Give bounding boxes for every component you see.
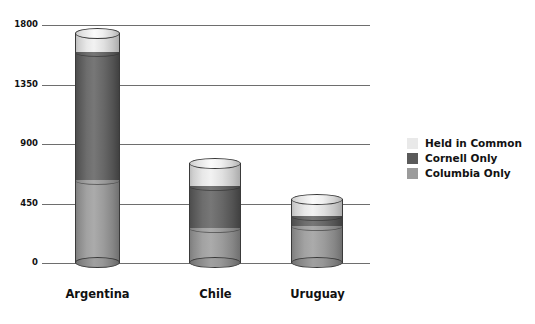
- segment-chile-cornell-only[interactable]: [189, 186, 241, 228]
- cylinder-bottom-cap: [189, 257, 241, 268]
- legend-swatch-icon-columbia-only: [407, 168, 418, 179]
- bar-argentina[interactable]: [75, 33, 120, 263]
- ytick-0: 0: [0, 258, 38, 268]
- cylinder-top-cap: [291, 194, 343, 205]
- legend-label-held-in-common: Held in Common: [425, 138, 522, 149]
- segment-argentina-columbia-only[interactable]: [75, 180, 120, 263]
- cylinder-bottom-cap: [75, 257, 120, 268]
- cylinder-bottom-cap: [291, 257, 343, 268]
- ytick-900: 900: [0, 139, 38, 149]
- ytick-label-450: 450: [4, 199, 38, 208]
- ytick-label-900: 900: [4, 139, 38, 148]
- ytick-1800: 1800: [0, 20, 38, 30]
- chart-legend: Held in Common Cornell Only Columbia Onl…: [407, 136, 532, 181]
- ytick-450: 450: [0, 199, 38, 209]
- bar-chile[interactable]: [189, 163, 241, 263]
- segment-argentina-cornell-only[interactable]: [75, 52, 120, 180]
- ytick-label-0: 0: [4, 258, 38, 267]
- ytick-1350: 1350: [0, 80, 38, 90]
- cylinder-top-cap: [75, 28, 120, 39]
- category-label-chile: Chile: [178, 289, 253, 301]
- legend-swatch-icon-held-in-common: [407, 138, 418, 149]
- legend-item-columbia-only[interactable]: Columbia Only: [407, 166, 532, 180]
- segment-uruguay-cornell-only[interactable]: [291, 216, 343, 226]
- bar-uruguay[interactable]: [291, 199, 343, 263]
- chart-container: 1800 1350 900 450 0: [0, 0, 535, 324]
- segment-uruguay-columbia-only[interactable]: [291, 226, 343, 263]
- ytick-label-1800: 1800: [4, 20, 38, 29]
- ytick-label-1350: 1350: [4, 80, 38, 89]
- category-label-uruguay: Uruguay: [280, 289, 355, 301]
- segment-chile-columbia-only[interactable]: [189, 228, 241, 263]
- category-label-argentina: Argentina: [55, 289, 140, 301]
- legend-label-cornell-only: Cornell Only: [425, 153, 497, 164]
- legend-label-columbia-only: Columbia Only: [425, 168, 511, 179]
- legend-swatch-icon-cornell-only: [407, 153, 418, 164]
- legend-item-held-in-common[interactable]: Held in Common: [407, 136, 532, 150]
- gridline-1800: [42, 25, 370, 26]
- legend-item-cornell-only[interactable]: Cornell Only: [407, 151, 532, 165]
- cylinder-top-cap: [189, 158, 241, 169]
